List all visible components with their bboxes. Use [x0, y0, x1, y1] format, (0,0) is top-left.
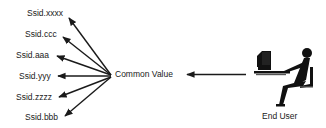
arrow-to-ssid-bbb	[65, 77, 111, 116]
diagram-canvas	[0, 0, 326, 128]
ssid-label-aaa: Ssid.aaa	[16, 51, 49, 60]
ssid-label-xxxx: Ssid.xxxx	[27, 9, 63, 18]
ssid-label-yyy: Ssid.yyy	[19, 72, 51, 81]
arrow-to-ssid-aaa	[57, 56, 111, 75]
arrow-to-ssid-zzzz	[59, 77, 111, 97]
ssid-label-zzzz: Ssid.zzzz	[16, 93, 52, 102]
user-at-computer-icon	[254, 48, 313, 107]
ssid-label-bbb: Ssid.bbb	[25, 113, 58, 122]
common-value-label: Common Value	[115, 70, 173, 79]
fan-arrows	[57, 18, 111, 116]
end-user-label: End User	[262, 112, 297, 121]
ssid-label-ccc: Ssid.ccc	[25, 30, 57, 39]
